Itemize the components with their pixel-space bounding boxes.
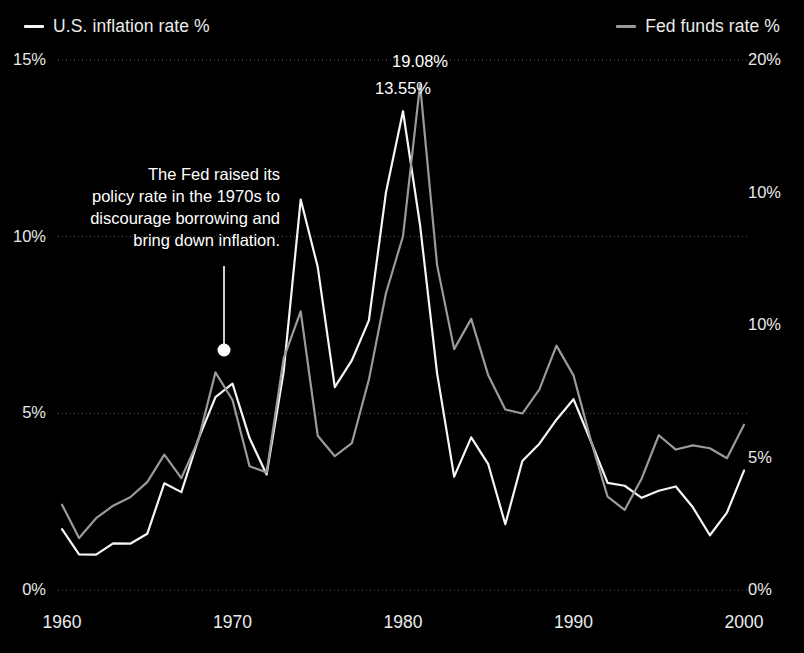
- annotation-line: The Fed raised its: [48, 164, 280, 186]
- left-axis-tick: 0%: [22, 580, 46, 599]
- x-axis-tick: 1960: [43, 612, 82, 633]
- right-axis-tick: 5%: [748, 448, 772, 467]
- annotation-line: discourage borrowing and: [48, 208, 280, 230]
- right-axis-tick: 0%: [748, 580, 772, 599]
- right-axis-tick: 10%: [748, 315, 781, 334]
- x-axis-tick: 1980: [384, 612, 423, 633]
- peak-value-label: 13.55%: [375, 79, 431, 98]
- right-axis-tick: 20%: [748, 50, 781, 69]
- x-axis-tick: 2000: [725, 612, 764, 633]
- annotation-dot-icon: [218, 344, 231, 357]
- line-swatch-icon: [616, 25, 636, 28]
- left-axis-tick: 10%: [13, 227, 46, 246]
- x-axis-tick: 1970: [213, 612, 252, 633]
- annotation-text: The Fed raised itspolicy rate in the 197…: [48, 164, 280, 252]
- legend-inflation: U.S. inflation rate %: [24, 16, 210, 37]
- legend-label-inflation: U.S. inflation rate %: [53, 16, 210, 37]
- legend-fed-funds: Fed funds rate %: [616, 16, 780, 37]
- line-swatch-icon: [24, 25, 44, 28]
- left-axis-tick: 15%: [13, 50, 46, 69]
- annotation-line: bring down inflation.: [48, 230, 280, 252]
- x-axis-tick: 1990: [554, 612, 593, 633]
- series-line-fed-funds-rate: [62, 84, 744, 538]
- legend-label-fed-funds: Fed funds rate %: [645, 16, 780, 37]
- annotation-line: policy rate in the 1970s to: [48, 186, 280, 208]
- inflation-fed-funds-chart: U.S. inflation rate % Fed funds rate % 0…: [0, 0, 804, 653]
- peak-value-label: 19.08%: [392, 52, 448, 71]
- right-axis-tick: 10%: [748, 183, 781, 202]
- left-axis-tick: 5%: [22, 403, 46, 422]
